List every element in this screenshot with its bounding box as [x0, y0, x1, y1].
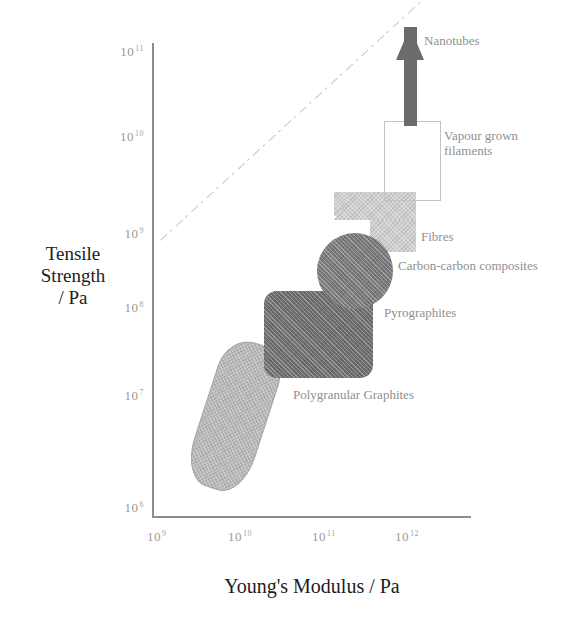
y-tick-label: 109 [104, 226, 144, 242]
y-axis-title-line3: / Pa [18, 287, 128, 309]
y-tick-label: 1010 [104, 129, 144, 145]
y-axis-title-line2: Strength [18, 265, 128, 287]
nanotubes-arrow-icon [396, 27, 424, 60]
y-tick-label: 1011 [104, 44, 144, 60]
y-axis-title: Tensile Strength / Pa [18, 243, 128, 309]
label-vapour-grown-filaments: Vapour grown filaments [444, 128, 524, 158]
x-tick-label: 1011 [312, 529, 336, 545]
label-polygranular-graphites: Polygranular Graphites [293, 387, 414, 402]
y-axis-title-line1: Tensile [18, 243, 128, 265]
y-tick-label: 106 [104, 500, 144, 516]
label-carbon-carbon-composites: Carbon-carbon composites [398, 258, 538, 273]
label-nanotubes: Nanotubes [424, 33, 480, 48]
label-pyrographites: Pyrographites [384, 305, 456, 320]
x-axis-line [152, 516, 471, 518]
label-fibres: Fibres [421, 229, 454, 244]
y-tick-label: 107 [104, 388, 144, 404]
x-tick-label: 1012 [395, 529, 419, 545]
region-vapour-grown-filaments [384, 121, 441, 201]
region-carbon-carbon-composites [317, 233, 393, 309]
x-tick-label: 109 [147, 529, 167, 545]
x-tick-label: 1010 [228, 529, 252, 545]
x-axis-title: Young's Modulus / Pa [152, 575, 472, 598]
y-axis-line [152, 43, 154, 518]
chart-canvas: 1011 1010 109 108 107 106 109 1010 1011 … [0, 0, 579, 623]
hatch-texture [317, 233, 393, 309]
